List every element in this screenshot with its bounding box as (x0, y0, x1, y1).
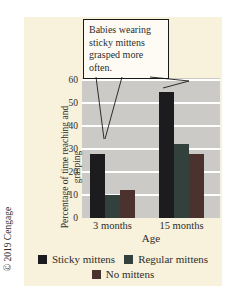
y-tick-label-60: 60 (56, 75, 78, 86)
x-axis-label: Age (121, 232, 181, 244)
legend-swatch-icon (124, 255, 133, 264)
x-tick-label-15-months: 15 months (150, 220, 214, 231)
legend-swatch-icon (92, 270, 101, 279)
bar-15-months-no-mittens (189, 154, 204, 218)
bar-3-months-sticky-mittens (90, 154, 105, 218)
figure-panel: 0102030405060 Percentage of time reachin… (24, 17, 222, 286)
legend-item-regular-mittens: Regular mittens (124, 253, 208, 265)
annotation-callout: Babies wearing sticky mittens grasped mo… (83, 19, 169, 79)
bar-3-months-no-mittens (120, 190, 135, 218)
bar-15-months-regular-mittens (174, 144, 189, 218)
legend-item-sticky-mittens: Sticky mittens (38, 253, 115, 265)
gridline-60 (82, 79, 220, 81)
bar-3-months-regular-mittens (105, 195, 120, 218)
y-axis-label: Percentage of time reaching and grasping (59, 98, 85, 236)
plot-area (82, 78, 220, 218)
gridline-50 (82, 102, 220, 104)
legend-item-no-mittens: No mittens (92, 268, 155, 280)
copyright-text: © 2019 Cengage (3, 194, 17, 284)
annotation-text: Babies wearing sticky mittens grasped mo… (89, 24, 151, 73)
x-tick-label-3-months: 3 months (81, 220, 145, 231)
gridline-40 (82, 125, 220, 127)
legend-label: Sticky mittens (52, 253, 115, 265)
bar-15-months-sticky-mittens (159, 92, 174, 219)
legend-label: Regular mittens (138, 253, 208, 265)
gridline-30 (82, 148, 220, 150)
legend-label: No mittens (106, 268, 155, 280)
legend-swatch-icon (38, 255, 47, 264)
legend: Sticky mittensRegular mittensNo mittens (24, 253, 222, 280)
